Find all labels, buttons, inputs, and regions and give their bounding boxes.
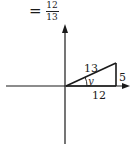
hypotenuse-label: 13 bbox=[84, 62, 98, 75]
angle-arc bbox=[85, 77, 87, 86]
triangle-diagram: 13 y 12 5 bbox=[0, 0, 130, 144]
opposite-label: 5 bbox=[119, 71, 126, 84]
adjacent-label: 12 bbox=[92, 89, 106, 102]
angle-label: y bbox=[87, 75, 94, 86]
y-axis-arrow-icon bbox=[62, 24, 68, 33]
